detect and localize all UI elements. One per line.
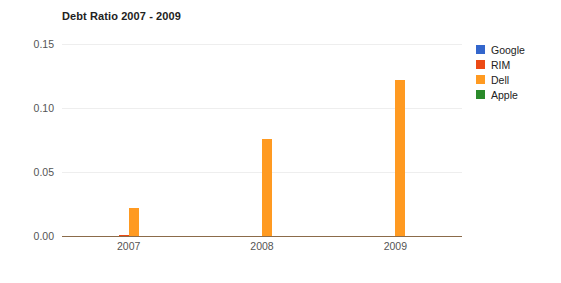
bars-layer <box>62 44 462 236</box>
legend-swatch-icon <box>476 60 485 69</box>
x-axis-line <box>62 236 462 237</box>
x-axis-tick-label: 2009 <box>384 240 407 252</box>
legend-label: RIM <box>491 59 510 71</box>
x-axis-tick-label: 2007 <box>117 240 140 252</box>
chart-legend: GoogleRIMDellApple <box>476 42 556 102</box>
legend-item-dell[interactable]: Dell <box>476 72 556 87</box>
y-axis-tick-label: 0.05 <box>34 166 54 178</box>
legend-item-google[interactable]: Google <box>476 42 556 57</box>
y-axis-tick-label: 0.10 <box>34 102 54 114</box>
legend-item-apple[interactable]: Apple <box>476 87 556 102</box>
bar-dell-2009[interactable] <box>395 80 405 236</box>
legend-swatch-icon <box>476 45 485 54</box>
legend-item-rim[interactable]: RIM <box>476 57 556 72</box>
y-axis-tick-label: 0.00 <box>34 230 54 242</box>
legend-swatch-icon <box>476 90 485 99</box>
bar-dell-2007[interactable] <box>129 208 139 236</box>
legend-swatch-icon <box>476 75 485 84</box>
x-axis: 200720082009 <box>62 240 462 260</box>
y-axis-tick-label: 0.15 <box>34 38 54 50</box>
x-axis-tick-label: 2008 <box>250 240 273 252</box>
y-axis: 0.000.050.100.15 <box>0 0 54 283</box>
legend-label: Dell <box>491 74 509 86</box>
chart-container: Debt Ratio 2007 - 2009 0.000.050.100.15 … <box>0 0 561 283</box>
bar-dell-2008[interactable] <box>262 139 272 236</box>
legend-label: Apple <box>491 89 518 101</box>
chart-title: Debt Ratio 2007 - 2009 <box>62 10 181 22</box>
legend-label: Google <box>491 44 525 56</box>
